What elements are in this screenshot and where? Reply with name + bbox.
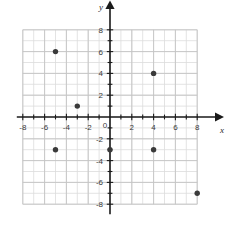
scatter-points xyxy=(53,49,200,196)
x-tick-label: 8 xyxy=(195,123,200,132)
data-point xyxy=(195,191,200,196)
y-tick-label: -6 xyxy=(96,178,104,187)
x-tick-label: -6 xyxy=(41,123,49,132)
x-tick-label: -2 xyxy=(85,123,93,132)
y-tick-label: 4 xyxy=(99,69,104,78)
x-tick-label: 2 xyxy=(130,123,135,132)
x-tick-label: 4 xyxy=(151,123,156,132)
y-tick-label: 6 xyxy=(99,48,104,57)
x-tick-label: 6 xyxy=(173,123,178,132)
data-point xyxy=(75,103,80,108)
x-tick-label: -8 xyxy=(19,123,27,132)
y-axis-label: y xyxy=(98,2,103,12)
data-point xyxy=(53,147,58,152)
y-tick-label: -4 xyxy=(96,157,104,166)
coordinate-plane-figure: -8-6-4-22468-8-6-4-22468 x y 0 xyxy=(0,0,231,229)
data-point xyxy=(151,147,156,152)
x-axis-label: x xyxy=(219,125,224,135)
data-point xyxy=(151,71,156,76)
origin-label: 0 xyxy=(103,121,108,130)
y-tick-label: 2 xyxy=(99,91,104,100)
data-point xyxy=(53,49,58,54)
x-tick-label: -4 xyxy=(63,123,71,132)
data-point xyxy=(107,147,112,152)
coordinate-plane-svg: -8-6-4-22468-8-6-4-22468 x y 0 xyxy=(0,0,231,229)
y-tick-label: -2 xyxy=(96,135,104,144)
y-tick-label: -8 xyxy=(96,200,104,209)
y-tick-label: 8 xyxy=(99,26,104,35)
